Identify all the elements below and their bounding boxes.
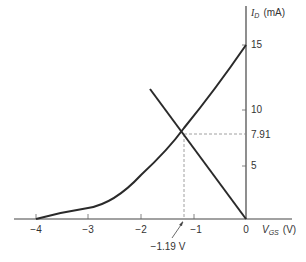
x-tick-label: −2 bbox=[135, 224, 147, 235]
chart: −4 −3 −2 −1 0 15 10 5 7.91 ID(mA) VGS(V)… bbox=[0, 0, 306, 262]
x-tick-label: −4 bbox=[30, 224, 42, 235]
x-tick-label: −3 bbox=[82, 224, 94, 235]
x-axis-label: VGS(V) bbox=[262, 224, 296, 236]
y-tick-label: 5 bbox=[251, 160, 257, 171]
q-voltage-label: −1.19 V bbox=[151, 241, 186, 252]
arrow-head-icon bbox=[179, 221, 183, 226]
bias-line bbox=[150, 89, 246, 219]
x-tick-label: 0 bbox=[243, 224, 249, 235]
x-ticks bbox=[36, 214, 194, 219]
y-tick-label: 15 bbox=[251, 39, 263, 50]
y-axis-label: ID(mA) bbox=[250, 7, 285, 19]
x-tick-label: −1 bbox=[190, 224, 202, 235]
transfer-curve bbox=[36, 45, 246, 219]
y-tick-label: 10 bbox=[251, 104, 263, 115]
q-current-label: 7.91 bbox=[251, 129, 271, 140]
